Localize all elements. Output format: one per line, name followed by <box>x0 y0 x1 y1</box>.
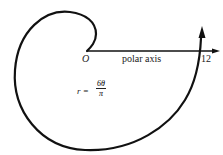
spiral-curve <box>15 12 201 150</box>
spiral-diagram <box>0 0 223 155</box>
origin-label: O <box>82 53 89 64</box>
equation-denominator: π <box>99 89 103 98</box>
tick-label-12: 12 <box>201 53 211 64</box>
polar-axis-label: polar axis <box>122 53 161 64</box>
polar-axis-arrowhead <box>212 49 220 54</box>
equation-numerator: 6θ <box>96 79 106 89</box>
equation-fraction: 6θ π <box>96 79 106 98</box>
equation-lhs: r = <box>77 86 89 96</box>
spiral-arrowhead <box>199 26 206 38</box>
